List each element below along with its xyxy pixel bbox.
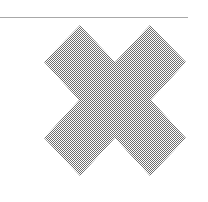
- x-shape: [44, 25, 186, 176]
- close-x-icon: [0, 0, 208, 202]
